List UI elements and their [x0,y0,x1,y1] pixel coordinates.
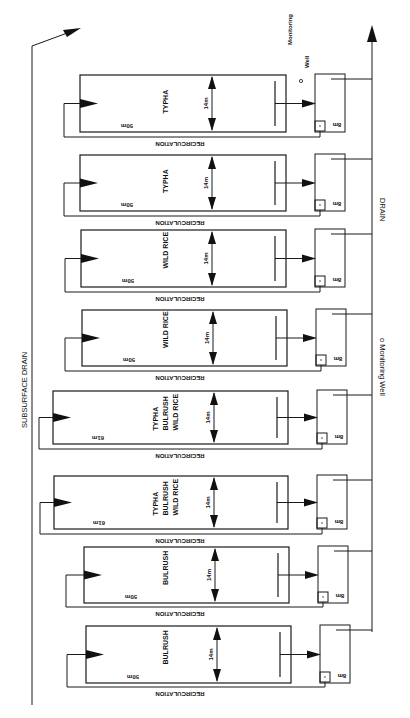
width-label: 14m [203,97,209,109]
width-label: 14m [205,496,211,508]
monitoring-well-top: Monitoring Well [287,14,310,83]
length-label: 50m [121,123,133,129]
outflow-arrow-icon [307,651,321,659]
inflow-arrow-icon [86,650,104,659]
wetland-cell-8: 8mRECIRCULATION14mBULRUSH50m [67,625,372,697]
width-label: 14m [206,569,212,581]
monitoring-well-side-label: o Monitoring Well [378,338,387,396]
plant-label: WILD RICE [162,311,169,348]
outflow-arrow-icon [303,334,317,342]
width-label: 14m [204,332,210,344]
wetland-cells-diagram: SUBSURFACE DRAIN DRAIN o Monitoring Well… [0,0,410,718]
plant-label: TYPHA [152,492,159,516]
pump-dot-icon [322,596,323,597]
plant-label: TYPHA [162,169,169,193]
box-size-label: 8m [334,356,343,362]
wetland-cell-3: 8mRECIRCULATION14mWILD RICE50m [65,229,372,302]
box-size-label: 8m [335,434,344,440]
cell-basin [86,626,291,683]
width-label: 14m [203,177,209,189]
inflow-arrow-icon [80,99,98,108]
width-arrow-up-icon [208,231,216,244]
cell-basin [84,547,289,603]
main-drain: DRAIN o Monitoring Well [367,25,387,632]
width-arrow-down-icon [209,352,217,365]
cells-layer: 8mRECIRCULATION14mTYPHA50m8mRECIRCULATIO… [39,74,372,697]
width-arrow-up-icon [210,392,218,405]
wetland-cell-5: 8mRECIRCULATION14mTYPHABULRUSHWILD RICE6… [39,390,372,459]
drain-arrow-icon [367,25,377,42]
inflow-arrow-icon [54,498,72,507]
monitoring-well-icon [299,79,302,82]
monitoring-well-label-2: Well [304,55,310,68]
length-label: 61m [93,520,105,526]
plant-label: WILD RICE [172,479,179,516]
wetland-cell-4: 8mRECIRCULATION14mWILD RICE50m [65,309,372,381]
length-label: 50m [125,594,137,600]
length-label: 50m [127,674,139,680]
plant-label: WILD RICE [162,232,169,269]
recirculation-label: RECIRCULATION [155,141,204,147]
pump-dot-icon [324,676,325,677]
width-label: 14m [208,648,214,660]
wetland-cell-7: 8mRECIRCULATION14mBULRUSH50m [66,546,372,617]
plant-label: BULRUSH [162,551,169,585]
wetland-cell-6: 8mRECIRCULATION14mTYPHABULRUSHWILD RICE6… [40,475,372,544]
recirculation-label: RECIRCULATION [155,691,204,697]
box-size-label: 8m [333,277,342,283]
cell-basin [80,75,286,132]
inflow-arrow-icon [53,413,71,422]
recirculation-line [66,575,323,607]
width-arrow-down-icon [213,669,221,682]
width-arrow-up-icon [211,548,219,561]
outflow-arrow-icon [304,499,318,507]
pump-dot-icon [319,125,320,126]
pump-dot-icon [319,280,320,281]
box-size-label: 8m [336,593,345,599]
cell-basin [81,230,286,287]
pump-dot-icon [321,437,322,438]
width-arrow-down-icon [208,197,216,210]
outflow-arrow-icon [302,179,316,187]
monitoring-well-label-1: Monitoring [287,14,293,45]
inflow-arrow-icon [80,179,98,188]
width-arrow-up-icon [210,477,218,490]
width-arrow-up-icon [208,156,216,169]
recirculation-label: RECIRCULATION [155,375,204,381]
inflow-arrow-icon [84,571,102,580]
width-arrow-down-icon [208,118,216,131]
plant-label: WILD RICE [172,394,179,431]
cell-basin [53,391,288,444]
length-label: 50m [121,202,133,208]
pump-dot-icon [319,204,320,205]
recirculation-label: RECIRCULATION [155,611,204,617]
subsurface-drain: SUBSURFACE DRAIN [20,28,81,705]
box-size-label: 8m [338,673,347,679]
plant-label: BULRUSH [162,481,169,515]
inflow-arrow-icon [81,254,99,263]
plant-label: BULRUSH [162,396,169,430]
drain-label: DRAIN [378,198,387,221]
plant-label: TYPHA [152,407,159,431]
plant-label: BULRUSH [162,630,169,664]
pump-dot-icon [321,522,322,523]
pump-dot-icon [320,359,321,360]
recirculation-line [67,655,325,688]
outflow-arrow-icon [302,100,316,108]
recirculation-label: RECIRCULATION [155,453,204,459]
length-label: 50m [123,357,135,363]
width-arrow-down-icon [210,515,218,528]
width-arrow-up-icon [213,627,221,640]
box-size-label: 8m [333,201,342,207]
wetland-cell-2: 8mRECIRCULATION14mTYPHA50m [64,154,372,226]
plant-label: TYPHA [162,90,169,114]
width-arrow-up-icon [209,311,217,324]
width-label: 14m [205,411,211,423]
recirculation-label: RECIRCULATION [155,220,204,226]
outflow-arrow-icon [304,414,318,422]
subsurface-drain-arrow-icon [63,28,81,37]
cell-basin [82,310,287,366]
cell-basin [54,476,288,529]
subsurface-drain-label: SUBSURFACE DRAIN [20,352,29,428]
outflow-arrow-icon [302,255,316,263]
